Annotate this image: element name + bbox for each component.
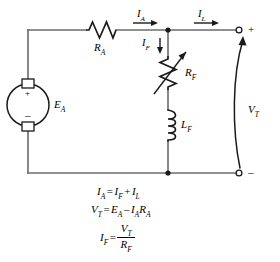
- source-minus-sign: –: [25, 110, 31, 121]
- field-resistor-symbol: [154, 52, 186, 94]
- negative-terminal-sign: –: [248, 167, 254, 178]
- junction-node-bottom: [165, 170, 170, 175]
- current-label-IA: IA: [137, 9, 145, 22]
- equation-field-current: IF=VTRF: [100, 224, 135, 253]
- fraction-vt-over-rf: VTRF: [117, 223, 134, 252]
- source-label: EA: [54, 99, 65, 113]
- circuit-schematic-svg: [0, 0, 280, 262]
- terminal-voltage-label: VT: [248, 104, 259, 118]
- junction-node-top: [165, 27, 170, 32]
- circuit-diagram: EA + – RA RF LF IA IL IF + – VT IA=IF+IL…: [0, 0, 280, 262]
- field-inductor-symbol: [168, 110, 176, 141]
- armature-resistor-symbol: [86, 22, 116, 38]
- armature-source-symbol: [7, 79, 49, 131]
- current-arrow-IF: [157, 38, 163, 54]
- field-resistor-label: RF: [185, 67, 196, 81]
- negative-terminal-node: [236, 170, 242, 176]
- source-plus-sign: +: [25, 89, 30, 98]
- equation-current-sum: IA=IF+IL: [97, 186, 140, 200]
- current-label-IF: IF: [142, 38, 150, 51]
- equation-terminal-voltage: VT=EA–IARA: [91, 204, 150, 218]
- current-label-IL: IL: [198, 9, 205, 22]
- positive-terminal-sign: +: [248, 24, 254, 35]
- positive-terminal-node: [236, 27, 242, 33]
- terminal-voltage-arc: [234, 36, 246, 168]
- field-inductor-label: LF: [181, 119, 192, 133]
- armature-resistor-label: RA: [94, 42, 105, 56]
